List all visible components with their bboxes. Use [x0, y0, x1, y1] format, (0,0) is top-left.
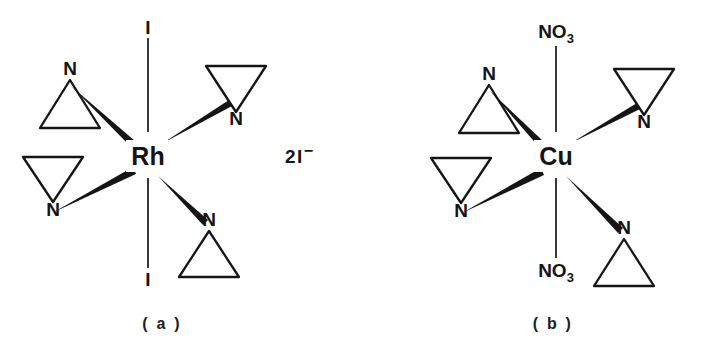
donor-nitrogen-lower-right-a: N — [202, 209, 216, 230]
donor-nitrogen-lower-left-b: N — [454, 200, 468, 221]
donor-nitrogen-upper-right-a: N — [229, 108, 243, 129]
chemical-structure-figure: I I N N N N — [0, 0, 704, 359]
donor-nitrogen-lower-right-b: N — [617, 217, 631, 238]
metal-center-cu: Cu — [539, 142, 573, 170]
aziridine-ring-lower-left-a — [23, 157, 83, 202]
bond-wedge-lower-right-b — [566, 176, 623, 233]
structure-drawing-canvas: I I N N N N — [0, 0, 704, 359]
bond-wedge-upper-right-a — [163, 100, 232, 143]
axial-ligand-top-b: NO3 — [538, 21, 574, 46]
metal-center-rh: Rh — [131, 142, 165, 170]
aziridine-ring-upper-right-b — [614, 69, 674, 115]
axial-ligand-bottom-b: NO3 — [538, 260, 574, 285]
axial-ligand-top-b-text: NO — [538, 21, 567, 42]
bond-wedge-lower-left-a — [54, 167, 136, 212]
caption-a: ( a ) — [142, 315, 181, 332]
counterion-iodide: 2I− — [285, 142, 314, 167]
caption-b: ( b ) — [533, 315, 573, 332]
structure-a: I I N N N N — [23, 17, 314, 332]
bond-wedge-lower-left-b — [462, 168, 544, 213]
axial-ligand-top-a-text: I — [145, 17, 150, 38]
aziridine-ring-lower-right-b — [594, 239, 654, 286]
axial-ligand-bottom-b-sub: 3 — [567, 270, 574, 285]
axial-ligand-bottom-b-text: NO — [538, 260, 567, 281]
bond-wedge-upper-right-b — [571, 103, 640, 143]
axial-ligand-top-b-sub: 3 — [567, 31, 574, 46]
structure-b: NO3 NO3 N N N N — [431, 21, 674, 332]
axial-ligand-bottom-a-text: I — [145, 269, 150, 290]
donor-nitrogen-lower-left-a: N — [46, 199, 60, 220]
aziridine-ring-upper-right-a — [206, 66, 266, 112]
aziridine-ring-upper-left-b — [459, 85, 519, 133]
donor-nitrogen-upper-left-a: N — [63, 58, 77, 79]
axial-ligand-bottom-a: I — [145, 269, 150, 290]
aziridine-ring-lower-right-a — [179, 231, 239, 277]
donor-nitrogen-upper-right-b: N — [637, 111, 651, 132]
donor-nitrogen-upper-left-b: N — [482, 63, 496, 84]
aziridine-ring-lower-left-b — [431, 158, 491, 203]
axial-ligand-top-a: I — [145, 17, 150, 38]
counterion-iodide-charge: − — [304, 142, 315, 159]
bond-wedge-lower-right-a — [158, 176, 208, 225]
counterion-iodide-text: 2I — [285, 146, 304, 167]
